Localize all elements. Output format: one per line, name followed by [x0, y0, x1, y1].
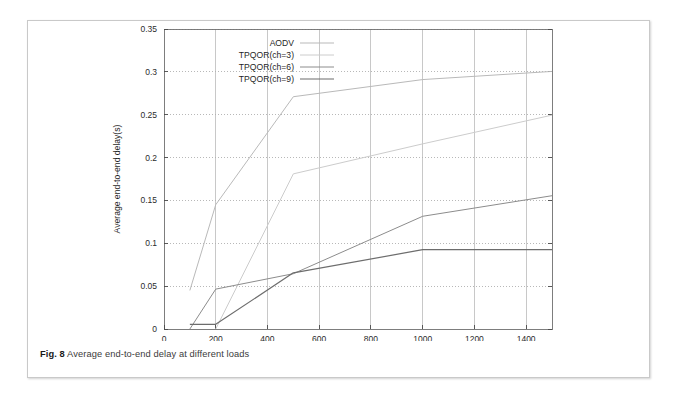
- axis-labels: CBR sending rate per flow(Kbps)Average e…: [112, 124, 421, 341]
- figure-caption: Fig. 8 Average end-to-end delay at diffe…: [40, 348, 640, 361]
- y-axis-tick-label: 0.35: [140, 24, 157, 34]
- legend-entry-label: TPQOR(ch=9): [239, 74, 294, 84]
- y-axis-tick-label: 0.3: [145, 67, 157, 77]
- x-axis-tick-label: 400: [260, 334, 274, 341]
- axis-frame: [164, 29, 552, 329]
- series-line: [216, 115, 552, 329]
- axis-ticks: 00.050.10.150.20.250.30.3502004006008001…: [140, 24, 552, 341]
- x-axis-tick-label: 600: [312, 334, 326, 341]
- y-axis-tick-label: 0.15: [140, 195, 157, 205]
- legend-entry-label: TPQOR(ch=6): [239, 62, 294, 72]
- x-axis-tick-label: 800: [364, 334, 378, 341]
- legend-entry-label: AODV: [270, 38, 295, 48]
- x-axis-tick-label: 1400: [517, 334, 536, 341]
- caption-label: Fig. 8: [40, 349, 65, 359]
- legend-entry-label: TPQOR(ch=3): [239, 50, 294, 60]
- x-axis-tick-label: 1000: [413, 334, 432, 341]
- figure-panel: 00.050.10.150.20.250.30.3502004006008001…: [27, 20, 650, 378]
- x-axis-tick-label: 0: [162, 334, 167, 341]
- line-chart-svg: 00.050.10.150.20.250.30.3502004006008001…: [28, 21, 651, 341]
- y-axis-tick-label: 0.05: [140, 281, 157, 291]
- grid-lines: [164, 29, 552, 329]
- y-axis-title: Average end-to-end delay(s): [112, 124, 122, 233]
- y-axis-tick-label: 0.2: [145, 153, 157, 163]
- y-axis-tick-label: 0.1: [145, 238, 157, 248]
- y-axis-tick-label: 0.25: [140, 110, 157, 120]
- chart-legend: AODVTPQOR(ch=3)TPQOR(ch=6)TPQOR(ch=9): [239, 38, 334, 84]
- y-axis-tick-label: 0: [152, 324, 157, 334]
- x-axis-tick-label: 1200: [465, 334, 484, 341]
- caption-text: Average end-to-end delay at different lo…: [67, 349, 249, 359]
- chart-plot-area: 00.050.10.150.20.250.30.3502004006008001…: [28, 21, 651, 341]
- x-axis-tick-label: 200: [209, 334, 223, 341]
